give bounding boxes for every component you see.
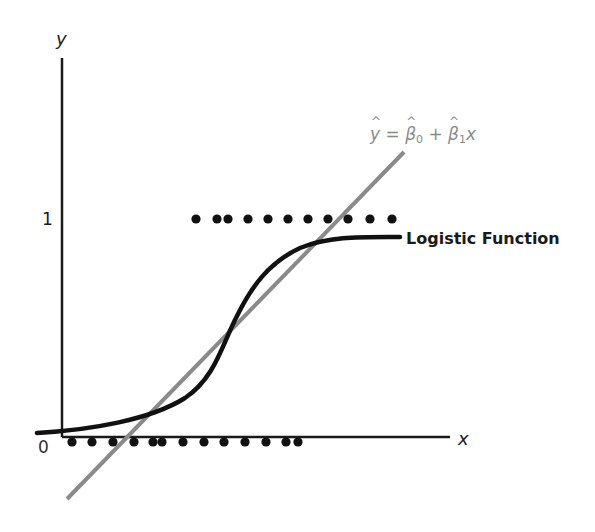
- equals-sign: =: [385, 124, 399, 144]
- equation-x: x: [466, 124, 476, 144]
- y-hat: y: [370, 124, 380, 144]
- points-y0: [67, 437, 302, 446]
- y-axis-label: y: [56, 28, 67, 49]
- plus-sign: +: [428, 124, 442, 144]
- y-one-tick-label: 1: [42, 209, 53, 229]
- points-y1: [191, 214, 396, 223]
- logistic-function-label: Logistic Function: [406, 229, 560, 248]
- linear-equation-label: y = β0 + β1x: [370, 124, 476, 146]
- beta0: β: [405, 124, 416, 144]
- origin-tick-label: 0: [38, 437, 49, 457]
- beta1-subscript: 1: [459, 133, 466, 146]
- x-axis-label: x: [458, 428, 469, 449]
- plot-canvas: [0, 0, 595, 532]
- logistic-curve: [37, 237, 400, 433]
- beta0-subscript: 0: [416, 133, 423, 146]
- linear-regression-line: [67, 152, 404, 499]
- beta1: β: [448, 124, 459, 144]
